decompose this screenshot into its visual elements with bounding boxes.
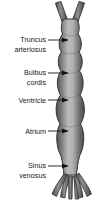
label-atrium-line1: Atrium [25,127,46,136]
heart-tube-body [56,19,84,175]
label-sinus-venosus-line1: Sinus [28,161,46,170]
label-bulbus-cordis-line2: cordis [27,78,47,87]
label-bulbus-cordis-line1: Bulbus [24,68,46,77]
label-ventricle: Ventricle [18,96,46,105]
label-truncus-arteriosus-line2: arteriosus [14,45,46,54]
label-truncus-arteriosus-line1: Truncus [20,35,46,44]
embryonic-heart-tube-diagram: Truncus arteriosus Bulbus cordis Ventric… [0,0,101,208]
label-ventricle-line1: Ventricle [18,96,46,105]
label-bulbus-cordis: Bulbus cordis [24,68,46,87]
canvas-background [0,0,101,208]
horn-center-left [69,176,73,199]
label-atrium: Atrium [25,127,46,136]
label-sinus-venosus-line2: venosus [19,171,46,180]
